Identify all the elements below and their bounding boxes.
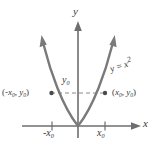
point-marker-right [103, 91, 107, 95]
point-left-x-base: -x [5, 87, 12, 97]
x-axis-arrowhead [131, 122, 141, 130]
point-label-left: (-x0, y0) [2, 88, 29, 98]
parabola-right-arrowhead [109, 35, 116, 47]
y-zero-label: y0 [62, 75, 70, 86]
x-tick-positive-subscript: 0 [101, 132, 104, 139]
x-tick-label-positive: x0 [97, 128, 105, 139]
y-zero-subscript: 0 [66, 79, 69, 86]
parabola-left-arrowhead [40, 35, 47, 47]
x-axis-label: x [143, 118, 148, 129]
x-tick-negative-subscript: 0 [51, 132, 54, 139]
parabola-figure: y x -x0 x0 y0 (-x0, y0) (x0, y0) y = x2 [0, 0, 154, 149]
point-right-close-paren: ) [133, 87, 136, 97]
x-tick-label-negative: -x0 [43, 128, 54, 139]
point-label-right: (x0, y0) [112, 88, 136, 98]
x-tick-negative-base: -x [43, 127, 51, 138]
y-axis-label: y [73, 6, 78, 17]
point-left-close-paren: ) [26, 87, 29, 97]
figure-canvas [0, 0, 154, 149]
point-marker-left [49, 91, 53, 95]
y-axis-arrowhead [74, 21, 82, 31]
